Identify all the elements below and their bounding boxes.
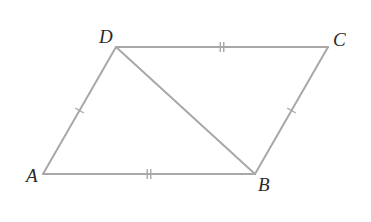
vertex-label-a: A — [24, 165, 38, 186]
segments — [43, 47, 328, 174]
parallelogram-diagram: D C A B — [0, 0, 371, 222]
segment-db — [116, 47, 255, 174]
vertex-label-d: D — [98, 26, 113, 47]
vertex-label-c: C — [333, 29, 346, 50]
vertex-label-b: B — [258, 174, 270, 195]
